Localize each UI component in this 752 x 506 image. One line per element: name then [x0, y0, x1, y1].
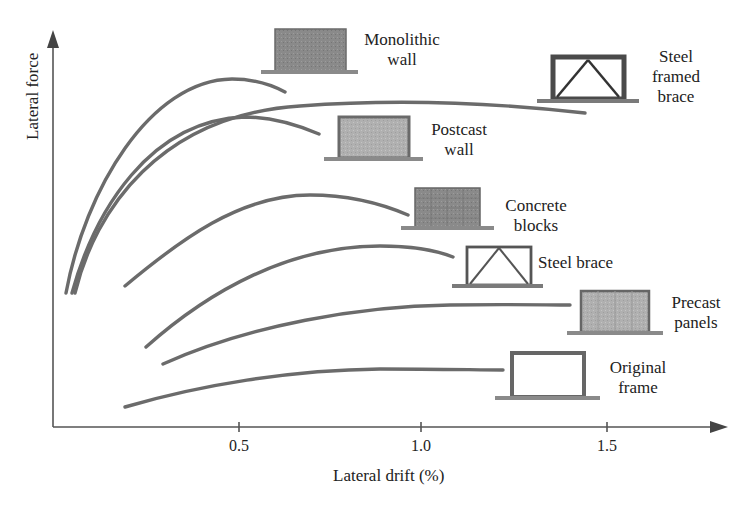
label-steel-framed-brace: Steel framed brace	[644, 47, 708, 107]
label-monolithic-wall: Monolithic wall	[356, 30, 448, 70]
steel-brace-icon	[452, 247, 543, 288]
x-axis-arrow-icon	[710, 421, 728, 433]
x-tick-label-0.5: 0.5	[229, 437, 249, 455]
y-axis-arrow-icon	[47, 30, 59, 48]
label-postcast-wall: Postcast wall	[419, 120, 499, 160]
x-tick-label-1.5: 1.5	[597, 437, 617, 455]
original-frame-icon	[495, 353, 600, 400]
curve-concrete-blocks	[125, 195, 408, 286]
precast-panels-icon	[567, 291, 663, 335]
label-precast-panels: Precast panels	[664, 293, 728, 333]
postcast-wall-icon	[324, 117, 423, 161]
concrete-blocks-icon	[401, 188, 494, 230]
curve-steel-brace	[146, 246, 453, 347]
label-steel-brace: Steel brace	[538, 253, 634, 273]
curves	[66, 79, 585, 407]
curve-original-frame	[125, 369, 503, 407]
label-concrete-blocks: Concrete blocks	[495, 196, 577, 236]
curve-monolithic-wall	[66, 79, 285, 293]
y-axis-title: Lateral force	[23, 53, 43, 140]
curve-postcast-wall	[72, 117, 319, 293]
lateral-force-drift-chart	[0, 0, 752, 506]
x-tick-label-1.0: 1.0	[411, 437, 431, 455]
curve-precast-panels	[163, 305, 570, 364]
monolithic-wall-icon	[261, 29, 358, 74]
label-original-frame: Original frame	[600, 358, 676, 398]
steel-framed-brace-icon	[537, 57, 639, 103]
x-axis-title: Lateral drift (%)	[333, 466, 444, 486]
